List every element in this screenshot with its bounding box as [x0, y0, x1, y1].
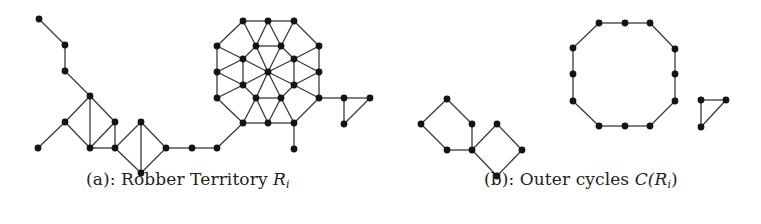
- graph-vertex: [87, 93, 94, 100]
- graph-edge: [573, 23, 599, 48]
- graph-edge: [256, 21, 268, 46]
- graph-vertex: [278, 95, 285, 102]
- graph-vertex: [291, 120, 298, 127]
- graph-vertex: [240, 120, 247, 127]
- graph-vertex: [698, 124, 705, 131]
- graph-vertex: [214, 69, 221, 76]
- graph-vertex: [622, 20, 629, 27]
- graph-vertex: [62, 42, 69, 49]
- graph-vertex: [291, 82, 298, 89]
- graph-edge: [294, 46, 319, 59]
- graph-vertex: [240, 82, 247, 89]
- graph-vertex: [253, 95, 260, 102]
- graph-edge: [243, 59, 268, 72]
- graph-edge: [217, 59, 243, 72]
- graph-edge: [294, 72, 319, 85]
- graph-vertex: [519, 147, 526, 154]
- caption-text: (a): Robber Territory: [86, 169, 273, 189]
- graph-vertex: [265, 18, 272, 25]
- graph-edge: [650, 23, 675, 49]
- graph-edge: [217, 123, 243, 148]
- graph-vertex: [622, 123, 629, 130]
- graph-vertex: [189, 145, 196, 152]
- graph-edge: [217, 46, 243, 59]
- graph-vertex: [672, 98, 679, 105]
- graph-edge: [141, 122, 166, 148]
- graph-vertex: [316, 43, 323, 50]
- graph-edge: [65, 122, 90, 148]
- graph-edge: [447, 99, 472, 124]
- graph-vertex: [723, 97, 730, 104]
- graph-vertex: [87, 145, 94, 152]
- graph-vertex: [341, 95, 348, 102]
- graph-vertex: [62, 119, 69, 126]
- graph-edge: [294, 21, 319, 46]
- graph-vertex: [469, 147, 476, 154]
- caption-outer-cycles: (b): Outer cycles C(Ri): [484, 169, 678, 189]
- graph-edge: [256, 98, 268, 123]
- graph-edge: [294, 85, 319, 98]
- graph-vertex: [494, 121, 501, 128]
- caption-math: C(R: [635, 169, 668, 189]
- caption-text: (b): Outer cycles: [484, 169, 635, 189]
- graph-vertex: [138, 119, 145, 126]
- graph-vertex: [469, 121, 476, 128]
- graph-vertex: [278, 43, 285, 50]
- graph-vertex: [672, 71, 679, 78]
- graph-vertex: [316, 95, 323, 102]
- graph-vertex: [240, 56, 247, 63]
- graph-edge: [268, 98, 281, 123]
- graph-edge: [65, 71, 90, 96]
- graph-edge: [243, 72, 268, 85]
- graph-edge: [268, 21, 281, 46]
- graph-vertex: [253, 43, 260, 50]
- graph-edge: [421, 124, 447, 150]
- graph-edge: [243, 21, 256, 46]
- graph-edge: [573, 101, 599, 126]
- graph-edge: [256, 72, 268, 98]
- graph-edge: [650, 101, 675, 126]
- graph-edge: [497, 124, 522, 150]
- graph-vertex: [647, 123, 654, 130]
- graph-nodes: [418, 20, 730, 180]
- graph-vertex: [291, 18, 298, 25]
- graph-vertex: [291, 56, 298, 63]
- graph-edge: [281, 21, 294, 46]
- graph-edge: [701, 100, 726, 127]
- graph-edge: [65, 96, 90, 122]
- graph-edge: [217, 72, 243, 85]
- graph-figure: [0, 0, 761, 224]
- graph-edge: [256, 46, 268, 72]
- graph-vertex: [418, 121, 425, 128]
- outer-cycles-graph: [418, 20, 730, 180]
- graph-vertex: [240, 18, 247, 25]
- graph-vertex: [444, 147, 451, 154]
- graph-vertex: [214, 145, 221, 152]
- graph-edge: [217, 21, 243, 46]
- graph-vertex: [112, 145, 119, 152]
- graph-vertex: [265, 120, 272, 127]
- graph-vertex: [316, 69, 323, 76]
- graph-vertex: [570, 98, 577, 105]
- graph-vertex: [672, 46, 679, 53]
- graph-edge: [344, 98, 370, 124]
- graph-vertex: [570, 45, 577, 52]
- graph-edge: [294, 59, 319, 72]
- graph-vertex: [214, 95, 221, 102]
- graph-vertex: [62, 68, 69, 75]
- graph-vertex: [596, 123, 603, 130]
- graph-edge: [294, 98, 319, 123]
- graph-vertex: [596, 20, 603, 27]
- graph-edge: [90, 96, 115, 122]
- graph-nodes: [35, 16, 374, 177]
- graph-vertex: [265, 69, 272, 76]
- graph-vertex: [112, 119, 119, 126]
- graph-vertex: [214, 43, 221, 50]
- graph-vertex: [341, 121, 348, 128]
- graph-vertex: [291, 146, 298, 153]
- robber-territory-graph: [35, 16, 374, 177]
- graph-edge: [39, 19, 65, 45]
- graph-edge: [90, 122, 115, 148]
- caption-math: R: [273, 169, 286, 189]
- graph-edge: [217, 85, 243, 98]
